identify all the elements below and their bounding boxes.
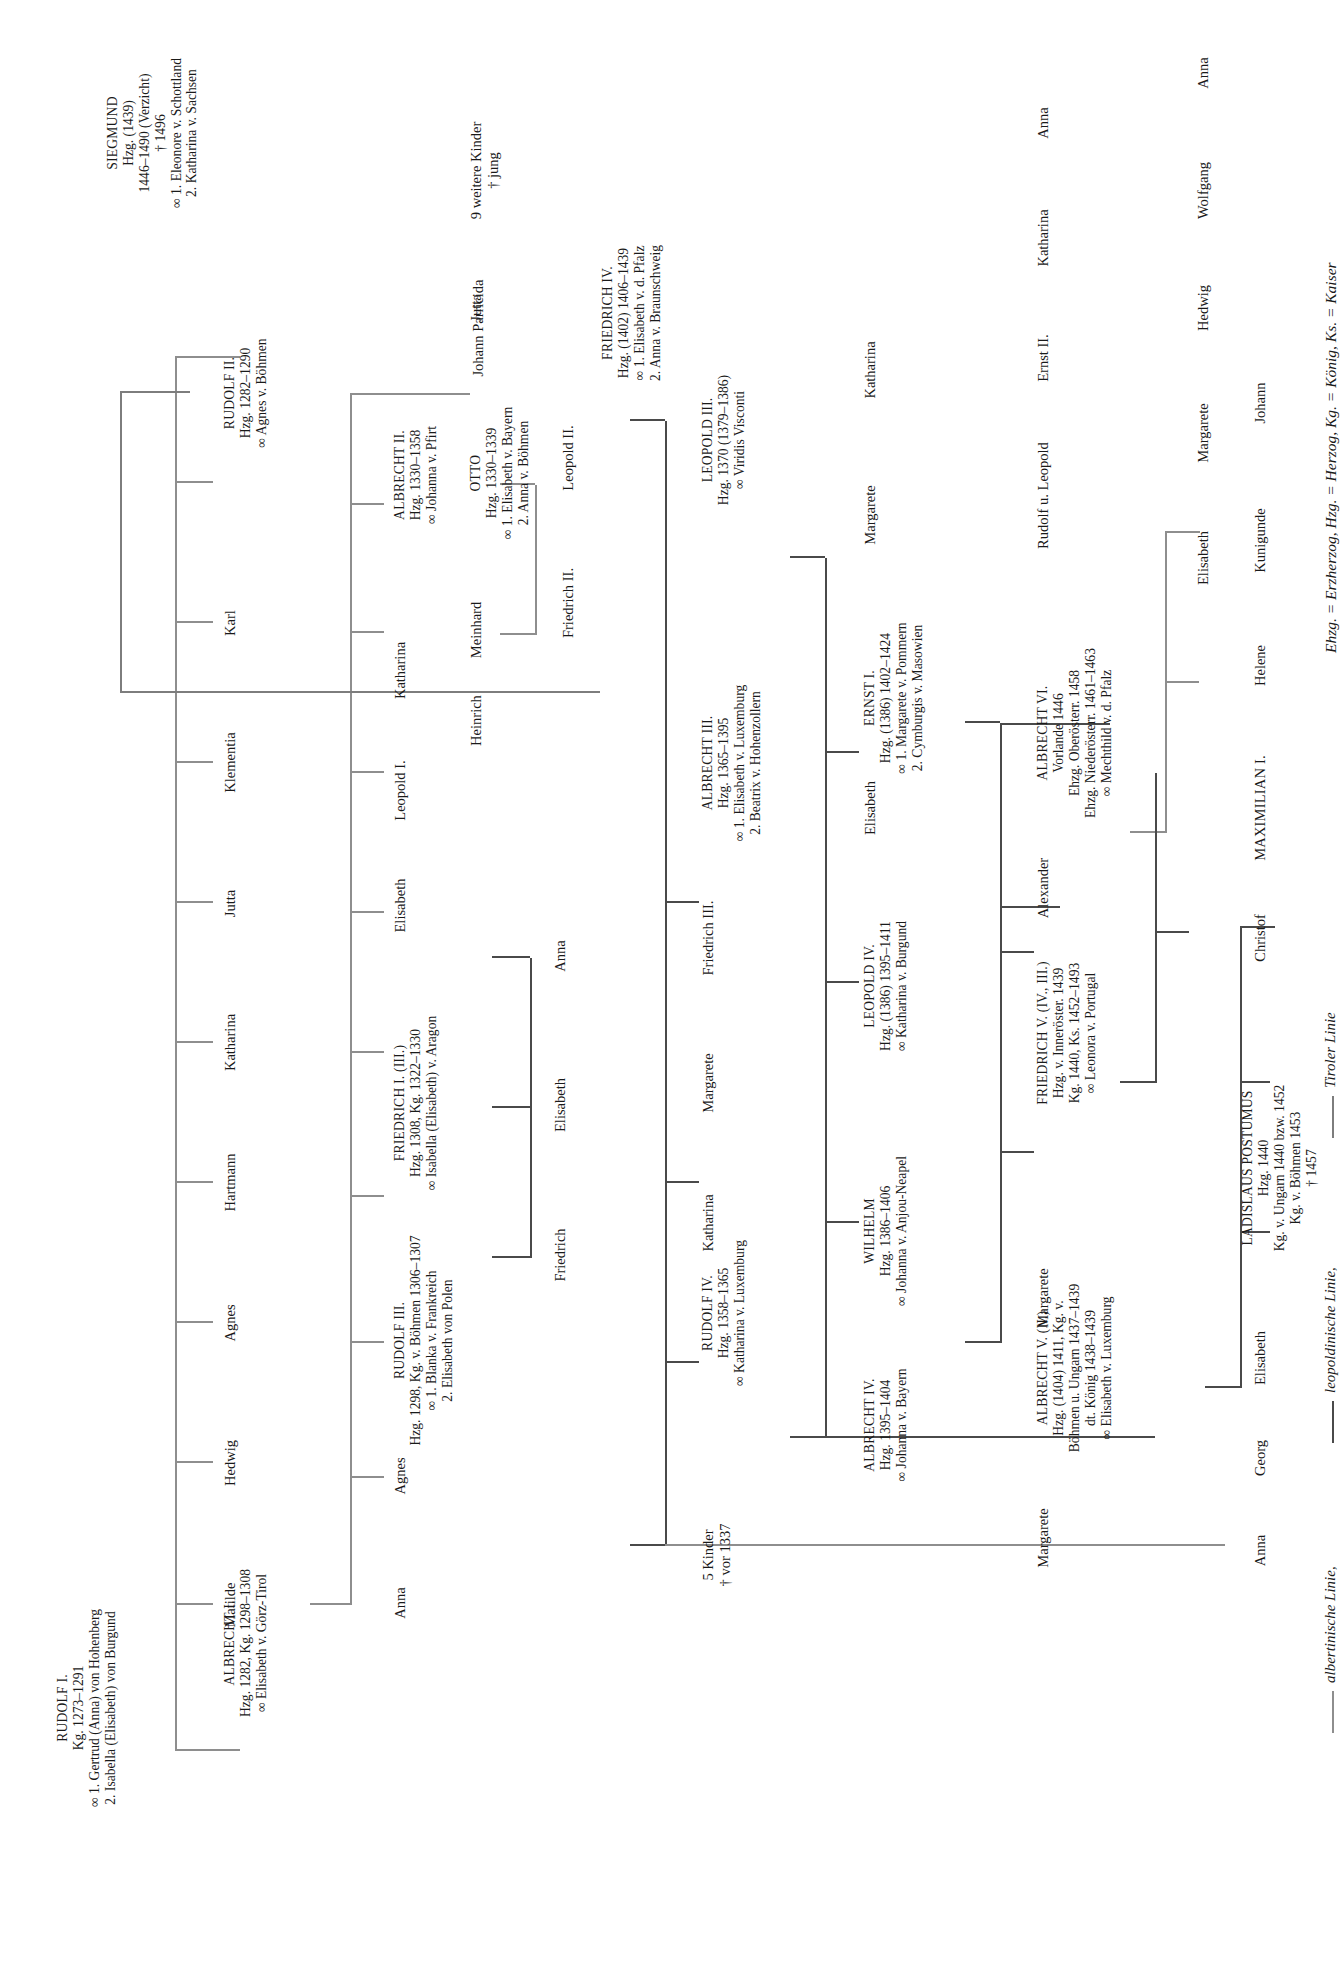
node-hartmann: Hartmann [222, 1120, 239, 1245]
connector-tick [965, 721, 1000, 723]
connector-albertine-descent [665, 1544, 1225, 1546]
connector-friedrich5-children [1155, 773, 1157, 1083]
node-albrecht3: ALBRECHT III. Hzg. 1365–1395 ∞ 1. Elisab… [700, 613, 764, 913]
node-helene: Helene [1252, 608, 1269, 723]
connector-tick [350, 771, 384, 773]
connector-tick [1165, 681, 1199, 683]
node-otto: OTTO Hzg. 1330–1339 ∞ 1. Elisabeth v. Ba… [468, 358, 532, 588]
node-leopold1: Leopold I. [392, 728, 409, 853]
connector-tick [175, 481, 213, 483]
node-margarete2: Margarete [862, 445, 879, 585]
connector-friedrich4-siegmund [120, 393, 122, 693]
node-albrecht1-line2: Hzg. 1282, Kg. 1298–1308 [238, 1518, 254, 1768]
connector-tick [175, 761, 213, 763]
connector-tick [1205, 1386, 1240, 1388]
connector-tick [175, 1041, 213, 1043]
connector-tick [175, 1181, 213, 1183]
node-katharina3: Katharina [700, 1163, 717, 1283]
node-ernst2: Ernst II. [1035, 298, 1052, 418]
connector-tick [1120, 1081, 1155, 1083]
node-albrecht2: ALBRECHT II. Hzg. 1330–1358 ∞ Johanna v.… [392, 365, 440, 585]
abbreviation-legend: Ehzg. = Erzherzog, Hzg. = Herzog, Kg. = … [1322, 262, 1340, 653]
connector-tick [175, 1603, 213, 1605]
node-margarete3: Margarete [1035, 1468, 1052, 1608]
node-siegmund: SIEGMUND Hzg. (1439) 1446–1490 (Verzicht… [105, 0, 200, 283]
legend-label-tiroler: Tiroler Linie [1322, 1012, 1339, 1088]
legend-label-albertinisch: albertinische Linie, [1322, 1566, 1339, 1683]
node-christof: Christof [1252, 878, 1269, 998]
connector-tick [492, 956, 530, 958]
node-anna-k: Anna [552, 901, 569, 1011]
node-elisabeth1: Elisabeth [392, 848, 409, 963]
connector-tick [350, 1195, 384, 1197]
connector-tirol-vertical [120, 691, 600, 693]
connector-tick [790, 1436, 825, 1438]
node-rudolf-leopold: Rudolf u. Leopold [1035, 408, 1052, 583]
node-katharina4: Katharina [862, 305, 879, 435]
connector-tick [175, 1321, 213, 1323]
connector-leopold3-children [825, 558, 827, 1438]
connector-tick [175, 901, 213, 903]
node-leopold4: LEOPOLD IV. Hzg. (1386) 1395–1411 ∞ Kath… [862, 851, 910, 1121]
node-jutta1: Jutta [222, 846, 239, 961]
connector-gen1-bar [175, 356, 177, 1751]
connector-tick [825, 981, 859, 983]
node-kunigunde: Kunigunde [1252, 468, 1269, 613]
connector-tick [1000, 1151, 1034, 1153]
connector-tick [350, 1341, 384, 1343]
connector-tick [1000, 951, 1034, 953]
node-rudolf1-line3: ∞ 1. Gertrud (Anna) von Hohenberg [87, 1543, 103, 1873]
node-katharina2: Katharina [392, 608, 409, 733]
connector-siegmund-drop [120, 391, 190, 393]
node-wolfgang: Wolfgang [1195, 123, 1212, 258]
node-margarete1: Margarete [700, 1018, 717, 1148]
node-katharina1: Katharina [222, 980, 239, 1105]
node-rudolf1-line1: RUDOLF I. [55, 1543, 71, 1873]
node-elisabeth-k: Elisabeth [552, 1045, 569, 1165]
connector-albrecht2-children [665, 421, 667, 1546]
node-ernst1: ERNST I. Hzg. (1386) 1402–1424 ∞ 1. Marg… [862, 553, 926, 843]
node-maximilian: MAXIMILIAN I. [1252, 723, 1269, 893]
connector-ernst1-children [1000, 723, 1002, 1343]
node-agnes1: Agnes [222, 1263, 239, 1383]
connector-friedrich1-children [530, 958, 532, 1258]
connector-tick [790, 556, 825, 558]
connector-gen2-bar [350, 395, 352, 1605]
node-hedwig1: Hedwig [222, 1403, 239, 1523]
legend-swatch-albertinisch [1332, 1691, 1334, 1733]
node-rudolf2: RUDOLF II. Hzg. 1282–1290 ∞ Agnes v. Böh… [222, 293, 270, 493]
node-friedrich2b: Friedrich II. [560, 528, 577, 678]
node-johann: Johann [1252, 343, 1269, 463]
connector-tick [1155, 931, 1189, 933]
connector-tick [825, 1221, 859, 1223]
legend-label-leopoldinisch: leopoldinische Linie, [1322, 1267, 1339, 1393]
node-katharina5: Katharina [1035, 173, 1052, 303]
connector-tick [665, 1181, 699, 1183]
node-margarete4: Margarete [1195, 363, 1212, 503]
connector-gen2-left [310, 1603, 350, 1605]
connector-tick [492, 1106, 530, 1108]
node-leopold3: LEOPOLD III. Hzg. 1370 (1379–1386) ∞ Vir… [700, 315, 748, 565]
node-margarete5: Margarete [1035, 1228, 1052, 1368]
connector-tick [1130, 831, 1165, 833]
legend-swatch-tiroler [1332, 1096, 1334, 1138]
node-anna2: Anna [1035, 68, 1052, 178]
node-jutta2: Jutta [468, 253, 485, 363]
connector-tick [630, 1544, 665, 1546]
legend-swatch-leopoldinisch [1332, 1401, 1334, 1443]
connector-albrecht5-children [1165, 533, 1167, 833]
node-leopold2b: Leopold II. [560, 383, 577, 533]
node-anna1: Anna [392, 1548, 409, 1658]
node-klementia: Klementia [222, 700, 239, 825]
node-albrecht1-line3: ∞ Elisabeth v. Görz-Tirol [254, 1518, 270, 1768]
node-fuenf-kinder: 5 Kinder † vor 1337 [700, 1485, 734, 1625]
connector-tick [175, 1461, 213, 1463]
connector-tick [965, 1341, 1000, 1343]
node-friedrich4: FRIEDRICH IV. Hzg. (1402) 1406–1439 ∞ 1.… [600, 163, 664, 463]
node-rudolf1-line2: Kg. 1273–1291 [71, 1543, 87, 1873]
connector-tick [492, 1256, 530, 1258]
node-karl: Karl [222, 568, 239, 678]
connector-tick [175, 621, 213, 623]
node-matilde: Matilde [222, 1545, 239, 1665]
